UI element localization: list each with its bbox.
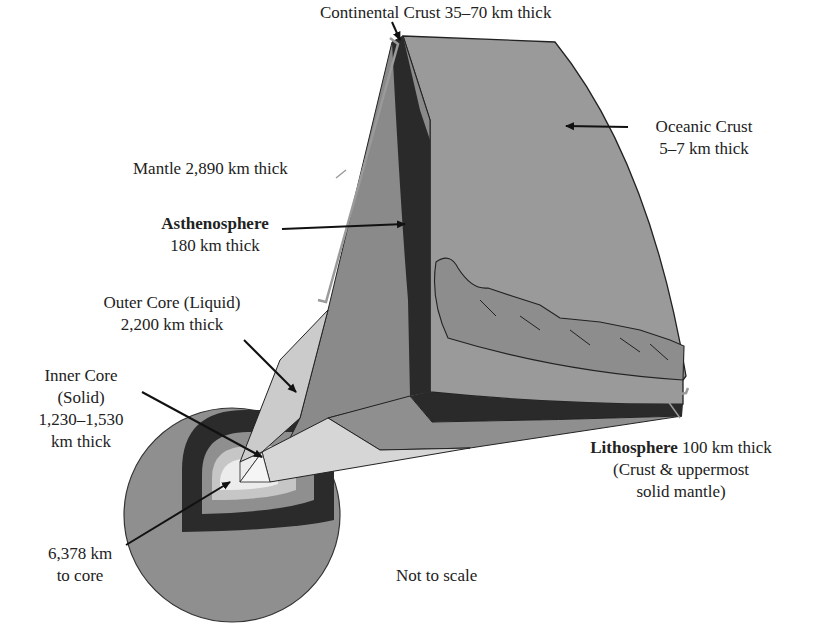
lithosphere-desc-2: solid mantle) xyxy=(566,481,796,503)
radius-desc: to core xyxy=(30,565,130,587)
lithosphere-desc-1: (Crust & uppermost xyxy=(566,459,796,481)
mantle-label: Mantle 2,890 km thick xyxy=(133,158,288,180)
outer-core-thickness: 2,200 km thick xyxy=(82,314,262,336)
earth-wedge xyxy=(240,36,686,482)
asthenosphere-thickness: 180 km thick xyxy=(150,235,280,257)
lithosphere-label: Lithosphere 100 km thick (Crust & upperm… xyxy=(566,437,796,503)
not-to-scale-note: Not to scale xyxy=(396,565,477,587)
outer-core-name: Outer Core (Liquid) xyxy=(82,292,262,314)
asthenosphere-label: Asthenosphere 180 km thick xyxy=(150,213,280,257)
lithosphere-name: Lithosphere xyxy=(590,438,678,457)
radius-value: 6,378 km xyxy=(30,543,130,565)
inner-core-range: 1,230–1,530 xyxy=(18,409,144,431)
lithosphere-thickness: 100 km thick xyxy=(682,438,772,457)
outer-core-label: Outer Core (Liquid) 2,200 km thick xyxy=(82,292,262,336)
oceanic-crust-name: Oceanic Crust xyxy=(634,116,774,138)
inner-core-unit: km thick xyxy=(18,431,144,453)
inner-core-label: Inner Core (Solid) 1,230–1,530 km thick xyxy=(18,365,144,453)
asthenosphere-name: Asthenosphere xyxy=(150,213,280,235)
inner-core-name: Inner Core xyxy=(18,365,144,387)
continental-crust-label: Continental Crust 35–70 km thick xyxy=(320,2,551,24)
radius-label: 6,378 km to core xyxy=(30,543,130,587)
oceanic-crust-label: Oceanic Crust 5–7 km thick xyxy=(634,116,774,160)
oceanic-crust-thickness: 5–7 km thick xyxy=(634,138,774,160)
inner-core-state: (Solid) xyxy=(18,387,144,409)
